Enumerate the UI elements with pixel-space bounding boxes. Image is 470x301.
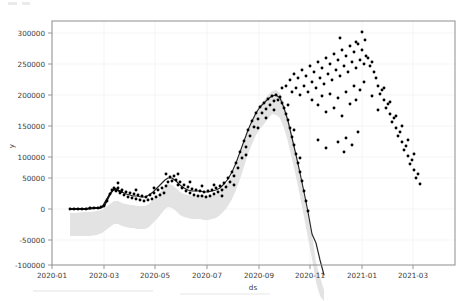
y-tick-label: 200000 [18, 91, 46, 100]
x-tick-label: 2020-01 [37, 271, 67, 280]
axes-background [52, 21, 455, 265]
y-tick-label: 300000 [18, 29, 46, 38]
x-tick-label: 2021-03 [398, 271, 428, 280]
x-tick-label: 2021-01 [347, 271, 377, 280]
x-tick-label: 2020-03 [89, 271, 119, 280]
x-tick-label: 2020-09 [244, 271, 274, 280]
y-tick-label: 50000 [22, 174, 45, 183]
x-tick-label: 2020-11 [295, 271, 325, 280]
y-tick-label: 100000 [18, 153, 46, 162]
plot-area [48, 21, 455, 301]
y-axis-title: y [7, 143, 16, 148]
x-tick-label: 2020-07 [192, 271, 222, 280]
y-tick-label: -50000 [20, 236, 46, 245]
x-tick-label: 2020-05 [140, 271, 170, 280]
forecast-figure: 300000 250000 200000 150000 100000 50000… [0, 0, 470, 301]
y-tick-label: -100000 [15, 261, 45, 270]
chart-canvas: 300000 250000 200000 150000 100000 50000… [0, 0, 470, 301]
y-tick-label: 150000 [18, 122, 46, 131]
y-tick-label: 0 [40, 205, 45, 214]
y-tick-label: 250000 [18, 60, 46, 69]
x-axis-title: ds [249, 283, 258, 292]
